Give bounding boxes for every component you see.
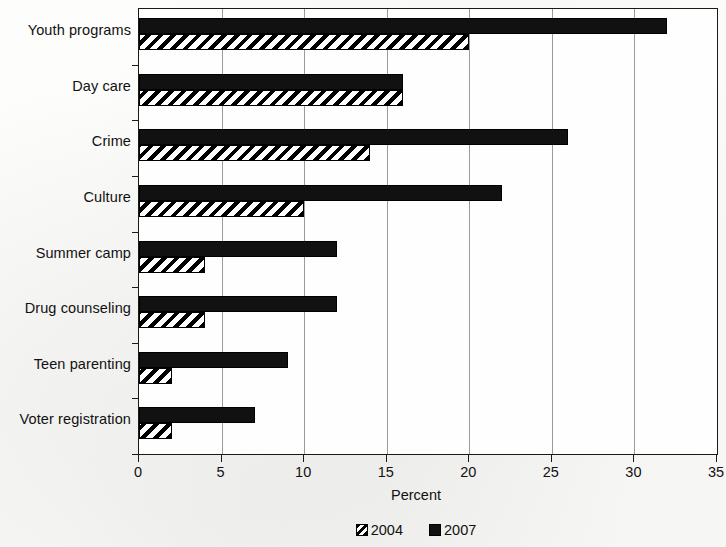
y-axis-label: Summer camp: [1, 245, 131, 261]
bar-group: [139, 120, 717, 176]
y-axis-tick: [132, 287, 139, 288]
solid-swatch-icon: [429, 524, 441, 536]
y-axis-tick: [132, 398, 139, 399]
y-axis-tick: [132, 343, 139, 344]
legend-label: 2004: [371, 522, 403, 538]
bar-group: [139, 176, 717, 232]
legend-item: 2007: [429, 522, 476, 538]
hatch-swatch-icon: [356, 524, 368, 536]
bar-2004: [139, 312, 205, 328]
x-axis-tick: [716, 455, 717, 462]
x-axis-tick: [468, 455, 469, 462]
bar-2007: [139, 129, 568, 145]
bar-2007: [139, 185, 502, 201]
x-axis-tick-label: 20: [460, 464, 476, 480]
x-axis-tick: [221, 455, 222, 462]
bar-2007: [139, 74, 403, 90]
x-axis-title-text: Percent: [391, 487, 441, 503]
bar-chart: Youth programsDay careCrimeCultureSummer…: [0, 0, 726, 547]
x-axis-tick: [633, 455, 634, 462]
legend-label: 2007: [444, 522, 476, 538]
bar-2007: [139, 18, 667, 34]
bar-2004: [139, 257, 205, 273]
x-axis-tick-label: 15: [378, 464, 394, 480]
bar-group: [139, 287, 717, 343]
y-axis-label: Drug counseling: [1, 300, 131, 316]
bar-2007: [139, 407, 255, 423]
y-axis-tick: [132, 176, 139, 177]
x-axis-tick-label: 10: [295, 464, 311, 480]
bar-2004: [139, 368, 172, 384]
y-axis-label: Crime: [1, 133, 131, 149]
x-axis-tick: [386, 455, 387, 462]
bar-2007: [139, 241, 337, 257]
bar-2004: [139, 145, 370, 161]
y-axis-tick: [132, 232, 139, 233]
bar-2007: [139, 296, 337, 312]
y-axis-label: Voter registration: [1, 411, 131, 427]
y-axis-label: Youth programs: [1, 22, 131, 38]
y-axis-label: Teen parenting: [1, 356, 131, 372]
legend-item: 2004: [356, 522, 403, 538]
x-axis-tick: [138, 455, 139, 462]
x-axis-tick-label: 5: [217, 464, 225, 480]
y-axis-labels: Youth programsDay careCrimeCultureSummer…: [0, 8, 131, 455]
bar-group: [139, 65, 717, 121]
y-axis-label: Culture: [1, 189, 131, 205]
y-axis-tick: [132, 120, 139, 121]
x-axis-tick-label: 30: [625, 464, 641, 480]
bar-group: [139, 398, 717, 454]
bar-2004: [139, 423, 172, 439]
bar-group: [139, 232, 717, 288]
bar-2007: [139, 352, 288, 368]
bar-group: [139, 9, 717, 65]
x-axis-tick: [303, 455, 304, 462]
x-axis-title: Percent: [0, 487, 726, 503]
chart-legend: 20042007: [0, 522, 726, 538]
plot-area: [138, 8, 718, 455]
x-axis-tick: [551, 455, 552, 462]
bar-2004: [139, 201, 304, 217]
x-axis-tick-label: 0: [134, 464, 142, 480]
bar-2004: [139, 90, 403, 106]
x-axis-tick-label: 35: [708, 464, 724, 480]
y-axis-label: Day care: [1, 78, 131, 94]
bar-2004: [139, 34, 469, 50]
y-axis-tick: [132, 65, 139, 66]
bar-group: [139, 343, 717, 399]
x-axis-tick-label: 25: [543, 464, 559, 480]
